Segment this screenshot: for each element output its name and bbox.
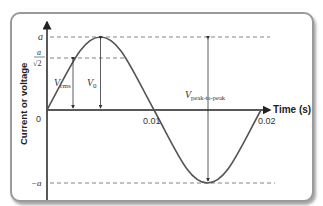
- svg-text:V0: V0: [87, 77, 97, 90]
- tick-0-01: 0.01: [143, 116, 161, 126]
- x-axis-title: Time (s): [273, 104, 311, 115]
- y-axis-title: Current or voltage: [18, 63, 29, 145]
- tick-0-02: 0.02: [258, 116, 276, 126]
- sine-diagram: a a √2 0 −a 0.01 0.02 Time (s) Current o…: [0, 0, 323, 206]
- label-a: a: [38, 31, 43, 42]
- label-zero: 0: [36, 114, 41, 124]
- svg-text:Vpeak-to-peak: Vpeak-to-peak: [185, 89, 226, 101]
- label-a-over-sqrt2-num: a: [37, 48, 41, 57]
- svg-text:Vrms: Vrms: [54, 77, 71, 90]
- label-neg-a: −a: [31, 178, 42, 188]
- label-a-over-sqrt2-den: √2: [33, 59, 41, 68]
